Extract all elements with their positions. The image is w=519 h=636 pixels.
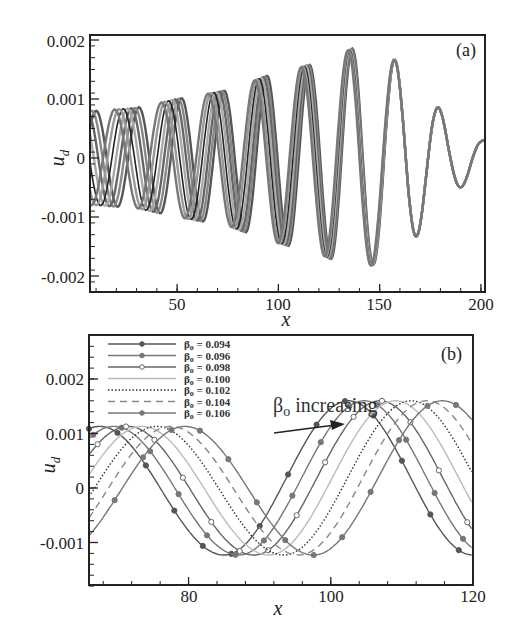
b-xtick-2: 120 bbox=[460, 587, 486, 606]
panel-b-curve bbox=[89, 401, 472, 555]
marker-icon bbox=[254, 500, 259, 505]
a-xtick-0: 50 bbox=[169, 295, 186, 314]
marker-icon bbox=[399, 458, 404, 463]
marker-icon bbox=[233, 552, 238, 557]
marker-icon bbox=[314, 422, 319, 427]
marker-icon bbox=[456, 548, 461, 553]
panel-a-curves bbox=[90, 49, 485, 266]
a-xlabel: x bbox=[281, 308, 291, 330]
b-xlabel: x bbox=[273, 597, 283, 619]
marker-icon bbox=[200, 543, 205, 548]
marker-icon bbox=[432, 490, 437, 495]
panel-b-curve bbox=[89, 401, 472, 555]
panel-b: 0.002 0.001 0 -0.001 80 100 120 x ud (b)… bbox=[37, 335, 486, 619]
marker-icon bbox=[204, 533, 209, 538]
marker-icon bbox=[311, 552, 316, 557]
marker-icon bbox=[143, 463, 148, 468]
marker-icon bbox=[340, 535, 345, 540]
legend-marker-icon bbox=[140, 411, 145, 416]
marker-icon bbox=[209, 519, 214, 524]
a-ytick-4: -0.002 bbox=[41, 268, 85, 287]
legend-marker-icon bbox=[140, 342, 145, 347]
panel-b-legend: βo = 0.094βo = 0.096βo = 0.098βo = 0.100… bbox=[108, 338, 231, 421]
marker-icon bbox=[283, 538, 288, 543]
a-ylabel: ud bbox=[46, 149, 72, 166]
marker-icon bbox=[169, 427, 174, 432]
marker-icon bbox=[425, 403, 430, 408]
marker-icon bbox=[436, 468, 441, 473]
marker-icon bbox=[318, 440, 323, 445]
marker-icon bbox=[115, 430, 120, 435]
panel-b-curves bbox=[86, 398, 471, 557]
b-ytick-3: -0.001 bbox=[40, 534, 84, 553]
marker-icon bbox=[123, 424, 128, 429]
marker-icon bbox=[112, 498, 117, 503]
marker-icon bbox=[261, 538, 266, 543]
panel-b-curve bbox=[89, 401, 472, 555]
figure: 0.002 0.001 0 -0.001 -0.002 50 100 150 2… bbox=[0, 0, 519, 636]
marker-icon bbox=[379, 398, 384, 403]
marker-icon bbox=[368, 489, 373, 494]
a-ytick-1: 0.001 bbox=[47, 90, 85, 109]
legend-marker-icon bbox=[140, 353, 145, 358]
marker-icon bbox=[172, 508, 177, 513]
b-xtick-0: 80 bbox=[181, 587, 198, 606]
marker-icon bbox=[396, 438, 401, 443]
marker-icon bbox=[404, 437, 409, 442]
marker-icon bbox=[226, 457, 231, 462]
marker-icon bbox=[197, 428, 202, 433]
a-xtick-3: 200 bbox=[468, 295, 494, 314]
a-ytick-3: -0.001 bbox=[41, 208, 85, 227]
panel-b-curve bbox=[89, 401, 472, 555]
b-ytick-2: 0 bbox=[76, 479, 85, 498]
panel-b-curve bbox=[89, 401, 472, 555]
beta-increasing-annotation: βo increasing bbox=[273, 394, 377, 419]
marker-icon bbox=[294, 513, 299, 518]
b-xtick-1: 100 bbox=[318, 587, 344, 606]
marker-icon bbox=[286, 472, 291, 477]
marker-icon bbox=[453, 402, 458, 407]
panel-b-frame bbox=[89, 335, 473, 585]
b-ytick-1: 0.001 bbox=[46, 425, 84, 444]
marker-icon bbox=[95, 442, 100, 447]
marker-icon bbox=[237, 548, 242, 553]
marker-icon bbox=[322, 460, 327, 465]
marker-icon bbox=[428, 512, 433, 517]
b-panel-label: (b) bbox=[441, 344, 462, 365]
b-ytick-0: 0.002 bbox=[46, 370, 84, 389]
panel-a: 0.002 0.001 0 -0.001 -0.002 50 100 150 2… bbox=[41, 32, 494, 330]
marker-icon bbox=[290, 493, 295, 498]
panel-b-curve bbox=[89, 401, 472, 555]
marker-icon bbox=[465, 520, 470, 525]
arrow-icon bbox=[274, 420, 345, 433]
a-xtick-2: 150 bbox=[366, 295, 392, 314]
marker-icon bbox=[460, 536, 465, 541]
marker-icon bbox=[176, 492, 181, 497]
marker-icon bbox=[140, 455, 145, 460]
a-panel-label: (a) bbox=[456, 40, 476, 61]
legend-marker-icon bbox=[140, 365, 145, 370]
panel-b-curve bbox=[89, 401, 472, 555]
marker-icon bbox=[180, 475, 185, 480]
a-ytick-2: 0 bbox=[77, 149, 86, 168]
b-ylabel: ud bbox=[37, 456, 63, 473]
a-ytick-0: 0.002 bbox=[47, 32, 85, 51]
